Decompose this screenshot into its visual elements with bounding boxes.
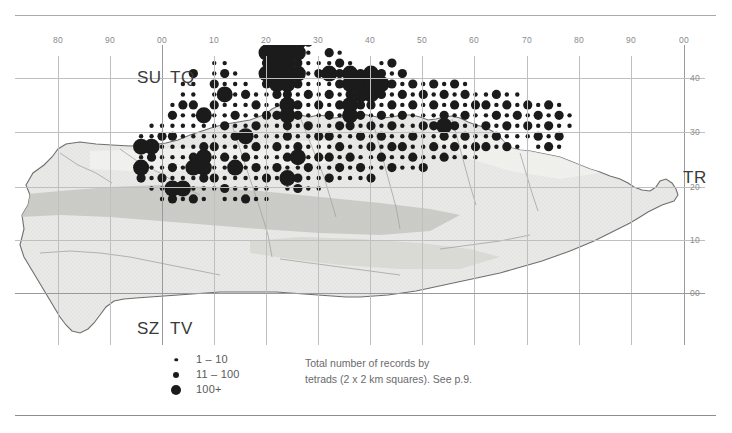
tetrad-dot — [387, 142, 396, 151]
tetrad-dot — [484, 113, 488, 117]
tetrad-dot — [243, 113, 247, 117]
tetrad-dot — [377, 111, 386, 120]
tetrad-dot — [481, 100, 490, 109]
map-page: 809000102030405060708090004030201000 SUT… — [0, 0, 732, 433]
tetrad-dot — [379, 165, 383, 169]
tetrad-dot — [241, 194, 250, 203]
tetrad-dot — [348, 134, 352, 138]
tetrad-dot — [327, 82, 331, 86]
legend-description: Total number of records by tetrads (2 x … — [305, 355, 472, 387]
tetrad-dot — [191, 134, 195, 138]
grid-vline-50-7 — [422, 56, 423, 345]
tetrad-dot — [181, 197, 185, 201]
tetrad-dot — [387, 79, 396, 88]
tetrad-dot — [348, 145, 352, 149]
tetrad-dot — [358, 145, 362, 149]
tetrad-dot — [306, 113, 310, 117]
x-tick-0: 80 — [53, 35, 63, 45]
grid-vline-90-1 — [110, 56, 111, 345]
tetrad-dot — [321, 66, 337, 82]
tetrad-dot — [293, 79, 302, 88]
tetrad-dot — [191, 124, 195, 128]
tetrad-dot — [272, 90, 281, 99]
tetrad-dot — [137, 173, 146, 182]
tetrad-dot — [463, 155, 467, 159]
tetrad-dot — [241, 153, 250, 162]
tetrad-dot — [429, 79, 438, 88]
tetrad-dot — [567, 113, 571, 117]
tetrad-dot — [452, 92, 456, 96]
tetrad-dot — [233, 103, 237, 107]
tetrad-dot — [223, 165, 227, 169]
tetrad-dot — [168, 132, 177, 141]
tetrad-dot — [463, 124, 467, 128]
tetrad-dot — [293, 184, 302, 193]
tetrad-dot — [233, 197, 237, 201]
tetrad-dot — [181, 165, 185, 169]
tetrad-dot — [275, 124, 279, 128]
grid-vline-00-2 — [162, 45, 163, 345]
tetrad-dot — [189, 100, 198, 109]
tetrad-dot — [379, 124, 383, 128]
tetrad-dot — [243, 145, 247, 149]
x-tick-11: 90 — [626, 35, 636, 45]
tetrad-dot — [296, 165, 300, 169]
x-tick-4: 20 — [261, 35, 271, 45]
tetrad-dot — [398, 111, 407, 120]
top-rule — [15, 15, 716, 16]
tetrad-dot — [325, 90, 334, 99]
tetrad-dot — [243, 82, 247, 86]
tetrad-dot — [536, 145, 540, 149]
tetrad-dot — [505, 134, 509, 138]
grid-square-code-tr: TR — [683, 168, 707, 188]
tetrad-dot — [293, 100, 302, 109]
tetrad-dot — [452, 113, 456, 117]
tetrad-dot — [408, 153, 417, 162]
tetrad-dot — [411, 113, 415, 117]
tetrad-dot — [348, 61, 352, 65]
tetrad-dot — [335, 121, 344, 130]
tetrad-dot — [220, 153, 229, 162]
tetrad-dot — [304, 45, 313, 47]
tetrad-dot — [484, 92, 488, 96]
tetrad-dot — [515, 145, 519, 149]
tetrad-dot — [296, 134, 300, 138]
tetrad-dot — [304, 90, 313, 99]
bottom-rule — [15, 415, 716, 416]
tetrad-dot — [149, 124, 153, 128]
grid-vline-60-8 — [474, 56, 475, 345]
tetrad-dot — [243, 165, 247, 169]
tetrad-dot — [223, 197, 227, 201]
tetrad-dot — [337, 113, 341, 117]
tetrad-dot — [346, 153, 355, 162]
tetrad-dot — [515, 124, 519, 128]
tetrad-dot — [196, 160, 212, 176]
tetrad-dot — [306, 134, 310, 138]
tetrad-dot — [283, 121, 292, 130]
tetrad-dot — [442, 82, 446, 86]
tetrad-dot — [515, 134, 519, 138]
tetrad-dot — [272, 163, 281, 172]
tetrad-dot — [149, 165, 153, 169]
tetrad-dot — [419, 121, 428, 130]
tetrad-dot — [191, 145, 195, 149]
tetrad-dot — [181, 134, 185, 138]
tetrad-dot — [481, 142, 490, 151]
grid-vline-40-6 — [370, 56, 371, 345]
tetrad-dot — [408, 132, 417, 141]
tetrad-dot — [223, 103, 227, 107]
y-tick-1: 30 — [690, 127, 700, 137]
tetrad-dot — [358, 176, 362, 180]
tetrad-dot — [342, 107, 358, 123]
tetrad-dot — [411, 145, 415, 149]
tetrad-dot — [358, 155, 362, 159]
tetrad-dot — [398, 142, 407, 151]
tetrad-dot — [356, 100, 365, 109]
tetrad-dot — [175, 181, 191, 197]
tetrad-dot — [379, 103, 383, 107]
y-tick-4: 00 — [690, 288, 700, 298]
tetrad-dot — [492, 132, 501, 141]
tetrad-dot — [306, 71, 310, 75]
tetrad-dot — [544, 121, 553, 130]
tetrad-dot — [356, 111, 365, 120]
